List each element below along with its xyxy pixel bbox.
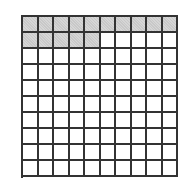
- grid-cell: [147, 161, 163, 177]
- grid-cell: [116, 113, 132, 129]
- grid-cell: [54, 65, 70, 81]
- grid-cell: [23, 145, 39, 161]
- grid-cell: [147, 97, 163, 113]
- grid-cell: [101, 49, 117, 65]
- grid-cell: [101, 81, 117, 97]
- grid-cell: [132, 65, 148, 81]
- grid-cell: [39, 113, 55, 129]
- shaded-cell: [23, 33, 39, 49]
- grid-cell: [101, 145, 117, 161]
- grid-cell: [70, 65, 86, 81]
- grid-cell: [54, 81, 70, 97]
- grid-cell: [85, 81, 101, 97]
- grid-cell: [147, 81, 163, 97]
- shaded-cell: [70, 33, 86, 49]
- grid-cell: [101, 129, 117, 145]
- shaded-cell: [85, 33, 101, 49]
- grid-cell: [147, 33, 163, 49]
- grid-cell: [101, 65, 117, 81]
- grid-cell: [23, 161, 39, 177]
- grid-cell: [163, 97, 179, 113]
- grid-cell: [70, 161, 86, 177]
- shaded-cell: [39, 17, 55, 33]
- grid-cell: [85, 113, 101, 129]
- shaded-cell: [23, 17, 39, 33]
- grid-cell: [85, 161, 101, 177]
- grid-cell: [132, 161, 148, 177]
- grid-cell: [54, 129, 70, 145]
- grid-cell: [70, 97, 86, 113]
- shaded-cell: [54, 17, 70, 33]
- grid-cell: [147, 65, 163, 81]
- grid-cell: [101, 113, 117, 129]
- grid-cell: [39, 65, 55, 81]
- grid-cell: [23, 129, 39, 145]
- grid-cell: [116, 81, 132, 97]
- grid-cell: [23, 81, 39, 97]
- grid-cell: [116, 49, 132, 65]
- grid-cell: [132, 113, 148, 129]
- grid-cell: [85, 145, 101, 161]
- grid-cell: [132, 49, 148, 65]
- grid-cell: [147, 145, 163, 161]
- grid-cell: [163, 145, 179, 161]
- grid-cell: [163, 65, 179, 81]
- grid-cell: [85, 65, 101, 81]
- grid-cell: [70, 145, 86, 161]
- shaded-cell: [70, 17, 86, 33]
- grid-cell: [116, 97, 132, 113]
- grid-cell: [54, 113, 70, 129]
- grid-cell: [85, 129, 101, 145]
- grid-cell: [39, 49, 55, 65]
- grid-cell: [163, 161, 179, 177]
- shaded-cell: [54, 33, 70, 49]
- grid-cell: [70, 49, 86, 65]
- grid-cell: [101, 97, 117, 113]
- grid-cell: [116, 65, 132, 81]
- grid-cell: [54, 145, 70, 161]
- grid-cell: [116, 33, 132, 49]
- shaded-cell: [116, 17, 132, 33]
- grid-cell: [70, 113, 86, 129]
- grid-cell: [70, 81, 86, 97]
- hundred-grid: [21, 15, 178, 178]
- grid-cell: [39, 161, 55, 177]
- grid-cell: [163, 33, 179, 49]
- grid-cell: [163, 81, 179, 97]
- grid-cell: [132, 33, 148, 49]
- grid-cell: [54, 161, 70, 177]
- grid-cell: [85, 97, 101, 113]
- shaded-cell: [132, 17, 148, 33]
- shaded-cell: [163, 17, 179, 33]
- shaded-cell: [101, 17, 117, 33]
- grid-cell: [101, 33, 117, 49]
- grid-cell: [23, 97, 39, 113]
- grid-cell: [147, 113, 163, 129]
- grid-cell: [23, 113, 39, 129]
- grid-cell: [39, 145, 55, 161]
- grid-cell: [39, 97, 55, 113]
- grid-cell: [116, 145, 132, 161]
- grid-cell: [70, 129, 86, 145]
- grid-cell: [116, 161, 132, 177]
- shaded-cell: [147, 17, 163, 33]
- shaded-cell: [39, 33, 55, 49]
- shaded-cell: [85, 17, 101, 33]
- grid-cell: [163, 113, 179, 129]
- grid-cell: [147, 49, 163, 65]
- grid-cell: [163, 129, 179, 145]
- grid-cell: [163, 49, 179, 65]
- grid-cell: [39, 129, 55, 145]
- grid-cell: [147, 129, 163, 145]
- grid-cell: [54, 49, 70, 65]
- grid-cell: [132, 145, 148, 161]
- grid-cell: [39, 81, 55, 97]
- grid-cell: [23, 49, 39, 65]
- grid-cell: [116, 129, 132, 145]
- grid-cell: [132, 97, 148, 113]
- grid-cell: [54, 97, 70, 113]
- grid-cell: [101, 161, 117, 177]
- grid-cell: [132, 129, 148, 145]
- grid-cell: [23, 65, 39, 81]
- grid-cell: [132, 81, 148, 97]
